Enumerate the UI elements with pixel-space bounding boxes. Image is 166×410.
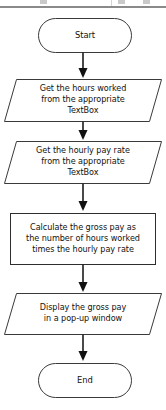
arrowhead-process-to-output <box>79 282 88 292</box>
arrowhead-input-rate-to-process <box>79 201 88 211</box>
flowchart-canvas: Start Get the hours worked from the appr… <box>0 0 166 410</box>
input-hours-parallelogram-shape <box>5 80 162 122</box>
arrowhead-input-hours-to-input-rate <box>79 130 88 140</box>
output-display-parallelogram-shape <box>5 294 162 335</box>
flowchart-shape-layer <box>0 0 166 410</box>
end-terminator-shape <box>39 364 132 398</box>
process-gross-pay-rectangle-shape <box>11 214 156 265</box>
arrowhead-output-to-end <box>79 351 88 361</box>
input-rate-parallelogram-shape <box>5 142 162 184</box>
start-terminator-shape <box>39 19 132 53</box>
arrowhead-start-to-input-hours <box>79 68 88 78</box>
